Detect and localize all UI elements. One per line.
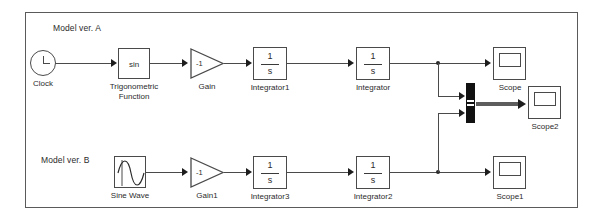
integrator1-numerator: 1 <box>254 51 286 61</box>
integrator3-fraction-bar <box>261 173 279 174</box>
block-trigonometric-function[interactable]: sin <box>118 48 150 79</box>
block-label-trigonometric-line2: Function <box>104 92 164 102</box>
arrow-trig-in <box>111 59 117 67</box>
clock-hand-horizontal-icon <box>43 63 50 64</box>
bus-mux-to-scope2 <box>476 102 520 106</box>
integrator-denominator: s <box>357 66 389 76</box>
arrow-scope1-in <box>485 168 491 176</box>
wire-gain-to-integrator1 <box>224 63 247 64</box>
arrow-mux-in2 <box>459 109 465 117</box>
block-label-gain: Gain <box>177 82 237 92</box>
simulink-diagram-canvas: Model ver. A Model ver. B Clock sin <box>0 0 597 222</box>
group-label-model-a: Model ver. A <box>53 23 101 33</box>
wire-integrator1-to-integrator <box>287 63 349 64</box>
scope-screen-icon <box>499 53 521 67</box>
block-integrator1[interactable]: 1 s <box>253 47 287 80</box>
block-label-trigonometric-line1: Trigonometric <box>104 82 164 92</box>
arrow-integrator3-in <box>246 168 252 176</box>
wire-sine-to-gain1 <box>146 172 183 173</box>
arrow-gain-in <box>182 59 188 67</box>
block-label-gain1: Gain1 <box>177 191 237 201</box>
wire-trig-to-gain <box>150 63 183 64</box>
arrow-gain1-in <box>182 168 188 176</box>
integrator3-numerator: 1 <box>254 160 286 170</box>
arrow-mux-in1 <box>459 92 465 100</box>
block-mux[interactable] <box>466 83 475 123</box>
scope-screen-icon <box>499 162 521 176</box>
wire-integrator3-to-integrator2 <box>287 172 349 173</box>
wire-row-a-branch-down <box>438 63 439 96</box>
wire-clock-to-trig <box>54 63 112 64</box>
mux-notch-icon <box>467 104 474 106</box>
block-integrator[interactable]: 1 s <box>356 47 390 80</box>
integrator1-fraction-bar <box>261 64 279 65</box>
wire-row-a-branch-to-mux <box>438 96 461 97</box>
integrator1-denominator: s <box>254 66 286 76</box>
scope-screen-icon <box>534 92 556 106</box>
block-scope2[interactable] <box>528 86 561 119</box>
integrator2-fraction-bar <box>364 173 382 174</box>
wire-row-b-branch-to-mux <box>438 113 461 114</box>
block-label-integrator3: Integrator3 <box>240 192 300 202</box>
arrow-integrator2-in <box>348 168 354 176</box>
arrow-integrator1-in <box>246 59 252 67</box>
block-gain-value: -1 <box>196 59 203 68</box>
arrow-integrator-in <box>348 59 354 67</box>
block-label-scope1: Scope1 <box>480 192 540 202</box>
integrator-numerator: 1 <box>357 51 389 61</box>
block-label-clock: Clock <box>13 79 73 89</box>
block-label-integrator: Integrator <box>343 83 403 93</box>
wire-gain1-to-integrator3 <box>224 172 247 173</box>
block-gain1-value: -1 <box>196 168 203 177</box>
block-integrator3[interactable]: 1 s <box>253 156 287 189</box>
block-label-sine-wave: Sine Wave <box>100 191 160 201</box>
arrow-scope-in <box>485 59 491 67</box>
trig-function-value: sin <box>119 59 149 68</box>
integrator-fraction-bar <box>364 64 382 65</box>
block-scope1[interactable] <box>493 156 526 189</box>
block-label-integrator1: Integrator1 <box>240 83 300 93</box>
integrator3-denominator: s <box>254 175 286 185</box>
mux-notch-icon <box>467 100 474 102</box>
block-integrator2[interactable]: 1 s <box>356 156 390 189</box>
wire-row-b-branch-up <box>438 113 439 172</box>
block-scope[interactable] <box>493 47 526 80</box>
sine-wave-icon <box>115 157 147 189</box>
integrator2-denominator: s <box>357 175 389 185</box>
block-label-integrator2: Integrator2 <box>343 192 403 202</box>
arrow-scope2-in <box>518 99 526 109</box>
block-label-scope2: Scope2 <box>515 122 575 132</box>
block-clock[interactable] <box>30 50 56 76</box>
integrator2-numerator: 1 <box>357 160 389 170</box>
group-label-model-b: Model ver. B <box>41 155 89 165</box>
block-sine-wave[interactable] <box>114 156 146 188</box>
